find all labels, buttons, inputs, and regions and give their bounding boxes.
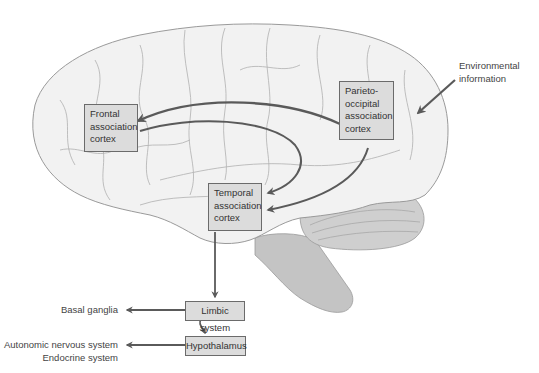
temporal-label-line: Temporal — [214, 187, 256, 200]
parieto-label-line: Parieto- — [345, 85, 388, 98]
temporal-label-line: cortex — [214, 212, 256, 225]
hypothalamus-label: Hypothalamus — [186, 340, 247, 351]
environmental-information-label: Environmental information — [459, 60, 520, 85]
brain-diagram: Frontal association cortex Parieto- occi… — [0, 0, 539, 373]
endocrine-label-line: Endocrine system — [4, 352, 118, 365]
environmental-label-line: Environmental — [459, 60, 520, 73]
limbic-system-box: Limbic system — [185, 301, 245, 321]
brain-illustration — [0, 0, 539, 373]
parieto-label-line: occipital — [345, 98, 388, 111]
parieto-label-line: cortex — [345, 123, 388, 136]
frontal-association-cortex-box: Frontal association cortex — [84, 104, 138, 152]
temporal-association-cortex-box: Temporal association cortex — [208, 183, 262, 231]
hypothalamus-box: Hypothalamus — [185, 336, 246, 356]
frontal-label-line: association — [90, 121, 132, 134]
basal-ganglia-label: Basal ganglia — [61, 304, 118, 317]
environmental-label-line: information — [459, 73, 520, 86]
frontal-label-line: cortex — [90, 133, 132, 146]
autonomic-label-line: Autonomic nervous system — [4, 339, 118, 352]
parieto-occipital-association-cortex-box: Parieto- occipital association cortex — [339, 81, 394, 140]
frontal-label-line: Frontal — [90, 108, 132, 121]
limbic-system-label: Limbic system — [200, 305, 230, 333]
parieto-label-line: association — [345, 110, 388, 123]
temporal-label-line: association — [214, 200, 256, 213]
basal-ganglia-text: Basal ganglia — [61, 304, 118, 315]
autonomic-endocrine-label: Autonomic nervous system Endocrine syste… — [4, 339, 118, 364]
